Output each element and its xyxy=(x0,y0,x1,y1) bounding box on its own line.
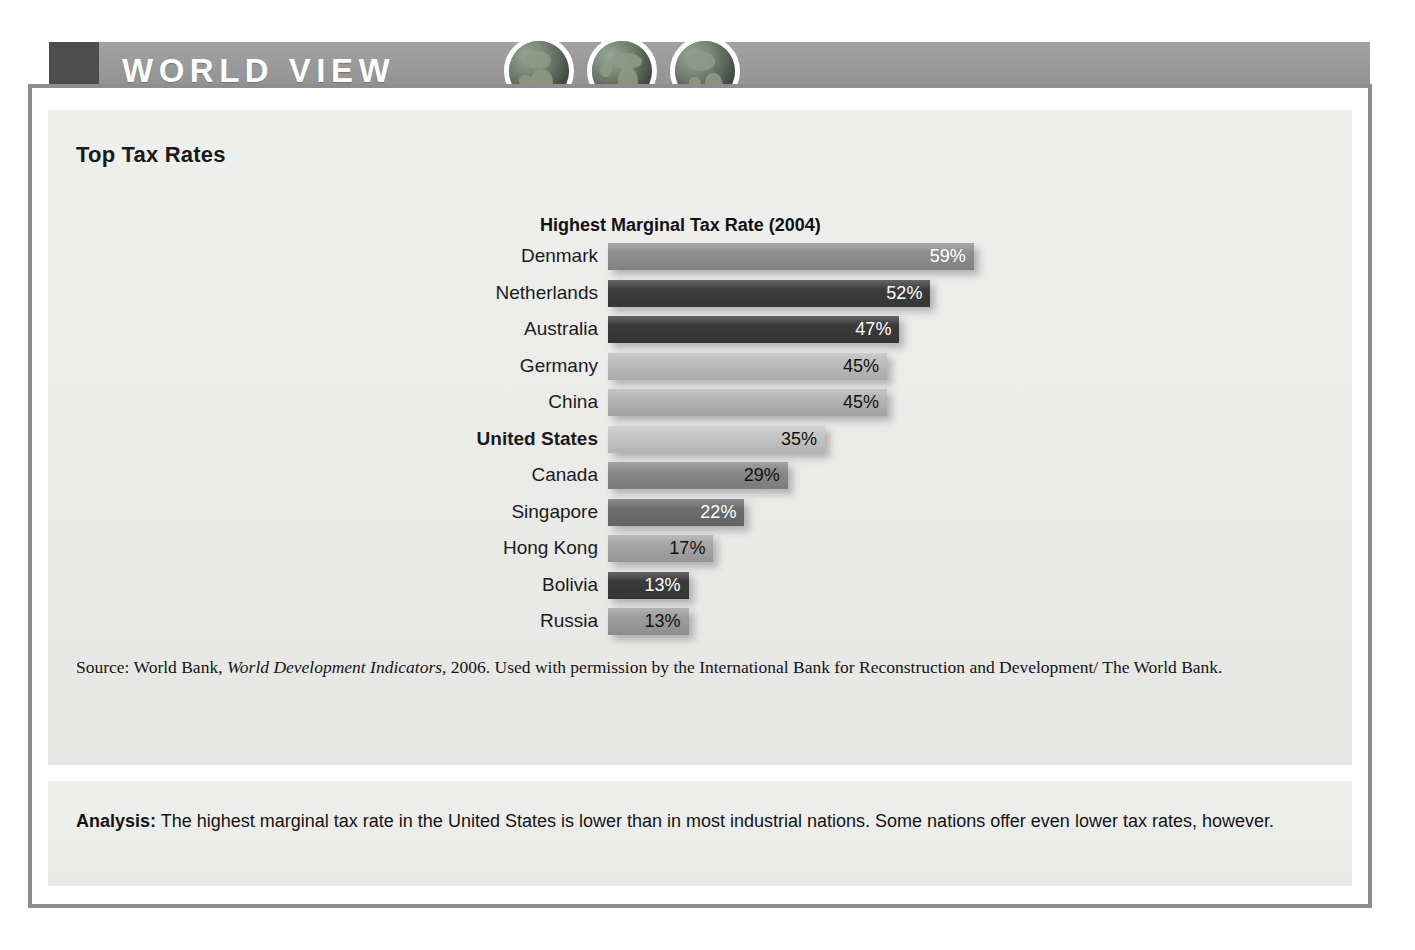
bar: 17% xyxy=(608,535,713,562)
bar-value-label: 45% xyxy=(843,392,879,413)
bar-row-label: China xyxy=(48,391,598,413)
bar-row-label: Russia xyxy=(48,610,598,632)
bar-row-label: Netherlands xyxy=(48,282,598,304)
bar-row: Hong Kong17% xyxy=(48,534,1352,571)
bar: 45% xyxy=(608,353,887,380)
bar-row: United States35% xyxy=(48,425,1352,462)
bar-row: Canada29% xyxy=(48,461,1352,498)
bar-wrapper: 22% xyxy=(608,499,744,526)
bar-wrapper: 35% xyxy=(608,426,825,453)
bar-chart-rows: Denmark59%Netherlands52%Australia47%Germ… xyxy=(48,242,1352,644)
source-note: Source: World Bank, World Development In… xyxy=(76,655,1332,680)
bar: 47% xyxy=(608,316,899,343)
chart-panel: Top Tax Rates Highest Marginal Tax Rate … xyxy=(48,110,1352,765)
bar-value-label: 22% xyxy=(700,502,736,523)
bar-wrapper: 29% xyxy=(608,462,788,489)
bar-row-label: Australia xyxy=(48,318,598,340)
bar-value-label: 35% xyxy=(781,429,817,450)
bar-row-label: Hong Kong xyxy=(48,537,598,559)
bar-value-label: 13% xyxy=(645,611,681,632)
bar-row: Singapore22% xyxy=(48,498,1352,535)
bar: 29% xyxy=(608,462,788,489)
bar-wrapper: 52% xyxy=(608,280,930,307)
bar-wrapper: 17% xyxy=(608,535,713,562)
bar-wrapper: 45% xyxy=(608,353,887,380)
bar-wrapper: 47% xyxy=(608,316,899,343)
bar-value-label: 52% xyxy=(886,283,922,304)
bar-value-label: 29% xyxy=(744,465,780,486)
bar-value-label: 59% xyxy=(930,246,966,267)
bar-row-label: Canada xyxy=(48,464,598,486)
bar-row: Russia13% xyxy=(48,607,1352,644)
source-italic-title: World Development Indicators, xyxy=(227,657,447,677)
bar-value-label: 45% xyxy=(843,356,879,377)
bar-row: Netherlands52% xyxy=(48,279,1352,316)
bar: 35% xyxy=(608,426,825,453)
bar-wrapper: 13% xyxy=(608,608,689,635)
analysis-label: Analysis: xyxy=(76,811,156,831)
bar: 45% xyxy=(608,389,887,416)
bar-row-label: United States xyxy=(48,428,598,450)
bar-row-label: Denmark xyxy=(48,245,598,267)
bar-value-label: 13% xyxy=(645,575,681,596)
bar-row: Denmark59% xyxy=(48,242,1352,279)
bar-value-label: 17% xyxy=(669,538,705,559)
bar-wrapper: 59% xyxy=(608,243,974,270)
bar-row: China45% xyxy=(48,388,1352,425)
bar-row-label: Bolivia xyxy=(48,574,598,596)
source-prefix: Source: World Bank, xyxy=(76,657,227,677)
chart-title: Highest Marginal Tax Rate (2004) xyxy=(540,215,821,236)
bar-row-label: Germany xyxy=(48,355,598,377)
analysis-panel: Analysis: The highest marginal tax rate … xyxy=(48,781,1352,886)
bar: 22% xyxy=(608,499,744,526)
bar-wrapper: 13% xyxy=(608,572,689,599)
bar-row: Australia47% xyxy=(48,315,1352,352)
bar-row: Germany45% xyxy=(48,352,1352,389)
bar: 13% xyxy=(608,608,689,635)
analysis-text: Analysis: The highest marginal tax rate … xyxy=(76,807,1316,836)
analysis-body: The highest marginal tax rate in the Uni… xyxy=(156,811,1274,831)
bar: 52% xyxy=(608,280,930,307)
bar: 59% xyxy=(608,243,974,270)
page-title: Top Tax Rates xyxy=(76,142,226,168)
bar-row: Bolivia13% xyxy=(48,571,1352,608)
bar-row-label: Singapore xyxy=(48,501,598,523)
bar-value-label: 47% xyxy=(855,319,891,340)
bar: 13% xyxy=(608,572,689,599)
source-suffix: 2006. Used with permission by the Intern… xyxy=(446,657,1222,677)
bar-wrapper: 45% xyxy=(608,389,887,416)
